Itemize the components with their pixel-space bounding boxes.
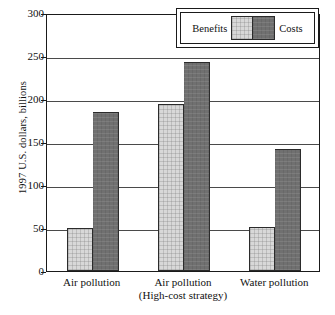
y-tick-label: 100	[14, 180, 44, 191]
bar-benefits-group-3	[249, 227, 275, 271]
legend: Benefits Costs	[176, 8, 319, 48]
y-tick-mark	[41, 272, 46, 273]
x-tick-label-3: Water pollution	[204, 276, 335, 289]
legend-label-benefits: Benefits	[188, 23, 231, 34]
x-tick-label-line1: Air pollution	[154, 276, 211, 288]
y-tick-label: 250	[14, 51, 44, 62]
y-tick-label: 300	[14, 8, 44, 19]
bar-costs-group-1	[93, 112, 119, 271]
legend-inner: Benefits Costs	[180, 12, 315, 44]
legend-swatch-costs	[253, 16, 275, 40]
bar-benefits-group-1	[67, 228, 93, 271]
bar-benefits-group-2	[158, 104, 184, 271]
y-tick-label: 150	[14, 137, 44, 148]
x-tick-label-line2: (High-cost strategy)	[113, 289, 253, 302]
bar-costs-group-3	[275, 149, 301, 271]
y-tick-label: 50	[14, 223, 44, 234]
legend-swatch-benefits	[231, 16, 253, 40]
plot-area	[46, 14, 320, 272]
y-tick-label: 200	[14, 94, 44, 105]
x-tick-label-line1: Water pollution	[240, 276, 308, 288]
legend-swatches	[231, 16, 275, 40]
gridline	[47, 58, 319, 59]
bar-chart: 1997 U.S. dollars, billions 050100150200…	[0, 0, 335, 315]
x-tick-label-line1: Air pollution	[63, 276, 120, 288]
bar-costs-group-2	[184, 62, 210, 271]
gridline	[47, 101, 319, 102]
legend-label-costs: Costs	[275, 23, 306, 34]
